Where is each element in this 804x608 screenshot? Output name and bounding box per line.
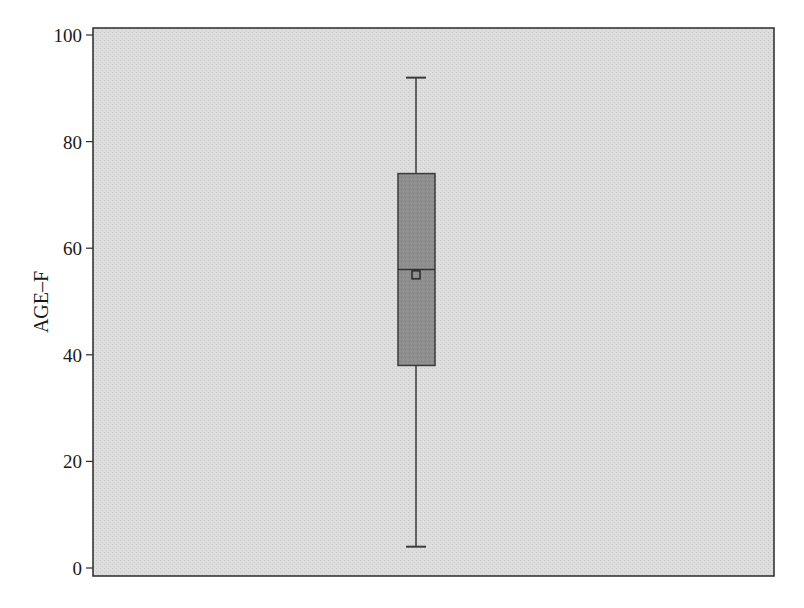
box-plot-chart: 020406080100 AGE–F xyxy=(0,0,804,608)
y-tick-label: 80 xyxy=(63,132,82,153)
y-tick-label: 60 xyxy=(63,238,82,259)
y-axis-label: AGE–F xyxy=(30,271,52,333)
y-axis: 020406080100 xyxy=(54,25,94,579)
y-tick-label: 0 xyxy=(73,558,83,579)
y-tick-label: 40 xyxy=(63,345,82,366)
y-tick-label: 20 xyxy=(63,451,82,472)
y-tick-label: 100 xyxy=(54,25,83,46)
